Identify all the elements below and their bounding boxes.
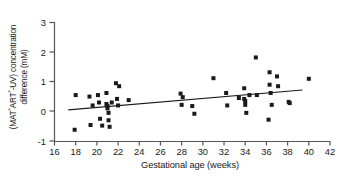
data-point (96, 93, 100, 97)
data-point (192, 112, 196, 116)
y-tick-label-4: -1 (38, 137, 46, 147)
data-point (307, 77, 311, 81)
data-point (225, 103, 229, 107)
data-point (116, 103, 120, 107)
data-point (180, 103, 184, 107)
x-axis-title: Gestational age (weeks) (55, 160, 325, 170)
data-point (243, 103, 247, 107)
data-point (237, 96, 241, 100)
x-tick-label-6: 28 (176, 147, 186, 157)
x-tick-label-4: 24 (134, 147, 144, 157)
x-tick-label-12: 40 (304, 147, 314, 157)
trend-line (68, 90, 302, 110)
data-point (110, 100, 114, 104)
x-tick-label-8: 32 (219, 147, 229, 157)
data-point (276, 84, 280, 88)
data-point (268, 83, 272, 87)
x-tick-label-10: 36 (261, 147, 271, 157)
data-point (179, 92, 183, 96)
data-point (211, 76, 215, 80)
data-point (97, 100, 101, 104)
data-point (100, 124, 104, 128)
data-point (275, 74, 279, 78)
y-tick-label-1: 2 (41, 48, 46, 58)
data-point (267, 118, 271, 122)
data-point (181, 95, 185, 99)
data-point (108, 125, 112, 129)
y-axis-tick-labels: 3 2 1 0 -1 (38, 18, 46, 147)
data-point (190, 104, 194, 108)
data-point (268, 70, 272, 74)
x-tick-label-5: 26 (155, 147, 165, 157)
data-point (98, 117, 102, 121)
data-point (242, 86, 246, 90)
data-point (105, 106, 109, 110)
x-axis-tick-labels: 1618202224262830323436384042 (49, 147, 335, 157)
plot-area: 3 2 1 0 -1 1618202224262830323436384042 (0, 0, 345, 179)
data-point (89, 123, 93, 127)
data-point (269, 91, 273, 95)
data-point (247, 93, 251, 97)
data-point (87, 95, 91, 99)
x-tick-label-0: 16 (49, 147, 59, 157)
data-point (104, 91, 108, 95)
y-tick-label-2: 1 (41, 77, 46, 87)
x-tick-label-13: 42 (325, 147, 335, 157)
data-point (127, 98, 131, 102)
data-point (91, 103, 95, 107)
x-tick-label-9: 34 (240, 147, 250, 157)
data-point (107, 118, 111, 122)
x-tick-label-11: 38 (282, 147, 292, 157)
data-point (243, 99, 247, 103)
y-tick-label-0: 3 (41, 18, 46, 28)
x-tick-label-2: 20 (92, 147, 102, 157)
data-point (224, 91, 228, 95)
data-point (115, 97, 119, 101)
data-point (73, 128, 77, 132)
x-tick-label-7: 30 (198, 147, 208, 157)
data-point (254, 55, 258, 59)
scatter-plot-figure: (MAT*ART*-UV) concentration difference (… (0, 0, 345, 179)
x-tick-label-1: 18 (71, 147, 81, 157)
data-point (270, 103, 274, 107)
y-tick-label-3: 0 (41, 107, 46, 117)
data-point (244, 111, 248, 115)
data-point (255, 93, 259, 97)
y-axis-ticks (50, 23, 55, 142)
data-point (74, 93, 78, 97)
data-points (73, 55, 311, 131)
data-point (107, 111, 111, 115)
data-point (117, 84, 121, 88)
x-tick-label-3: 22 (113, 147, 123, 157)
data-point (288, 101, 292, 105)
